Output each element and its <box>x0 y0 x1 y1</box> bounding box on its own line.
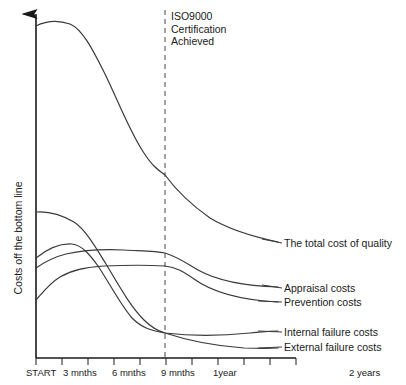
series-label-internal-failure-costs: Internal failure costs <box>284 326 378 339</box>
series-label-leaders <box>258 239 282 348</box>
series-label-external-failure-costs: External failure costs <box>284 341 381 354</box>
iso9000-cost-of-quality-chart: Costs off the bottom line ISO9000 Certif… <box>0 0 406 385</box>
x-axis-ticks <box>36 358 296 365</box>
x-tick-label-1-year: 1year <box>213 367 237 378</box>
x-tick-label-3-months: 3 mnths <box>63 367 97 378</box>
iso9000-annotation: ISO9000 Certification Achieved <box>171 10 226 48</box>
x-tick-label-9-months: 9 mnths <box>161 367 195 378</box>
iso9000-annotation-line-2: Certification <box>171 23 226 36</box>
x-tick-label-6-months: 6 mnths <box>112 367 146 378</box>
series-label-appraisal-costs: Appraisal costs <box>284 282 355 295</box>
x-tick-label-2-years: 2 years <box>349 367 380 378</box>
series-internal-failure-costs <box>36 244 278 335</box>
series-appraisal-costs <box>36 250 278 287</box>
x-tick-label-start: START <box>26 367 56 378</box>
series-label-prevention-costs: Prevention costs <box>284 296 362 309</box>
iso9000-annotation-line-1: ISO9000 <box>171 10 226 23</box>
series-total-cost-of-quality <box>36 22 278 242</box>
iso9000-annotation-line-3: Achieved <box>171 35 226 48</box>
series-label-total-cost-of-quality: The total cost of quality <box>284 237 392 250</box>
y-axis-title: Costs off the bottom line <box>12 158 24 318</box>
